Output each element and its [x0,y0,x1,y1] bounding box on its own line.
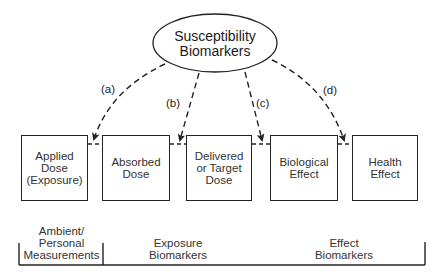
arrow-label-b: (b) [166,97,180,109]
box-text: Applied [35,150,73,162]
box-text: Biological [279,156,328,168]
arrow-label-c: (c) [256,97,269,109]
category-exposure-biomarkers: Exposure Biomarkers [138,237,218,261]
center-line-1: Susceptibility [174,29,256,44]
box-text: Dose [206,174,233,186]
category-text: Measurements [20,249,103,261]
center-line-2: Biomarkers [180,44,251,59]
category-text: Personal [20,237,103,249]
category-text: Exposure [138,237,218,249]
arrow-label-a: (a) [101,83,115,95]
arrow-a [94,64,165,139]
box-absorbed-dose: Absorbed Dose [102,135,170,201]
arrow-label-d: (d) [323,84,337,96]
box-text: (Exposure) [26,174,82,186]
category-text: Ambient/ [20,225,103,237]
box-text: or Target [196,162,241,174]
category-effect-biomarkers: Effect Biomarkers [304,237,384,261]
box-delivered-dose: Delivered or Target Dose [186,135,252,201]
box-text: Health [368,156,401,168]
box-biological-effect: Biological Effect [270,135,338,201]
box-text: Absorbed [111,156,160,168]
box-text: Dose [123,168,150,180]
susceptibility-biomarkers-label: Susceptibility Biomarkers [153,14,277,73]
box-text: Dose [41,162,68,174]
category-text: Biomarkers [304,249,384,261]
box-text: Delivered [195,150,244,162]
box-text: Effect [370,168,399,180]
arrow-d [272,60,344,140]
category-text: Effect [304,237,384,249]
box-text: Effect [289,168,318,180]
arrow-b [180,73,199,140]
box-applied-dose: Applied Dose (Exposure) [21,135,88,201]
category-ambient-personal: Ambient/ Personal Measurements [20,225,103,261]
category-text: Biomarkers [138,249,218,261]
box-health-effect: Health Effect [352,135,418,201]
